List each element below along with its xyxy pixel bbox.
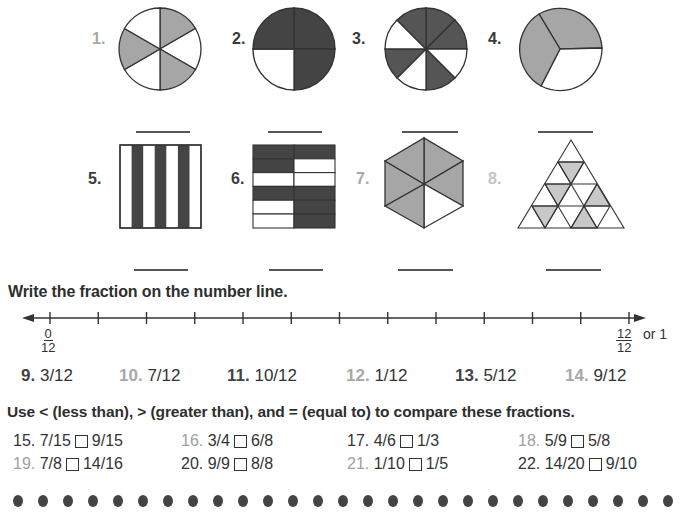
number-line-heading: Write the fraction on the number line.: [8, 283, 287, 301]
answer-line-1[interactable]: [136, 131, 190, 133]
problem-5-label: 5.: [88, 170, 101, 188]
answer-line-3[interactable]: [402, 131, 458, 133]
start-numerator: 0: [44, 327, 53, 341]
footer-dot-border: [13, 495, 673, 507]
compare-item-15: 15. 7/159/15: [13, 432, 123, 450]
fraction-item-14: 14. 9/12: [565, 366, 626, 386]
stripes-figure: [120, 145, 201, 228]
problem-2-label: 2.: [232, 30, 245, 48]
problem-1-label: 1.: [92, 30, 105, 48]
start-denominator: 12: [41, 341, 55, 354]
problem-6-label: 6.: [231, 170, 244, 188]
end-suffix: or 1: [643, 326, 667, 342]
circle-eighths-figure: [385, 8, 467, 90]
triangle-grid-figure: [518, 140, 624, 228]
compare-item-19: 19. 7/814/16: [13, 455, 123, 473]
circle-quarters-figure: [253, 8, 335, 90]
grid-figure: [253, 145, 335, 228]
problem-8-label: 8.: [488, 170, 501, 188]
fraction-item-11: 11. 10/12: [227, 366, 297, 386]
answer-line-2[interactable]: [268, 131, 322, 133]
fraction-item-10: 10. 7/12: [119, 366, 180, 386]
answer-box[interactable]: [589, 458, 602, 471]
answer-box[interactable]: [66, 458, 79, 471]
answer-line-7[interactable]: [398, 269, 453, 271]
end-numerator: 12: [616, 327, 632, 341]
number-line: [22, 312, 646, 324]
number-line-start-label: 0 12: [41, 327, 55, 354]
problem-7-label: 7.: [356, 170, 369, 188]
compare-heading: Use < (less than), > (greater than), and…: [7, 403, 575, 421]
compare-item-18: 18. 5/95/8: [518, 432, 610, 450]
answer-line-8[interactable]: [546, 269, 601, 271]
answer-box[interactable]: [400, 435, 413, 448]
answer-box[interactable]: [409, 458, 422, 471]
fraction-item-9: 9. 3/12: [21, 366, 73, 386]
compare-item-16: 16. 3/46/8: [181, 432, 273, 450]
answer-box[interactable]: [234, 435, 247, 448]
answer-line-5[interactable]: [134, 269, 188, 271]
circle-thirds-figure: [520, 8, 602, 90]
compare-item-21: 21. 1/101/5: [347, 455, 448, 473]
answer-box[interactable]: [571, 435, 584, 448]
fraction-item-12: 12. 1/12: [346, 366, 407, 386]
answer-box[interactable]: [234, 458, 247, 471]
problem-4-label: 4.: [488, 30, 501, 48]
fraction-item-13: 13. 5/12: [455, 366, 516, 386]
circle-sixths-figure: [119, 8, 201, 90]
answer-line-4[interactable]: [538, 131, 593, 133]
hexagon-figure: [385, 138, 463, 228]
compare-item-20: 20. 9/98/8: [181, 455, 273, 473]
number-line-end-label: 12 12: [616, 327, 632, 354]
end-denominator: 12: [617, 341, 631, 354]
answer-box[interactable]: [75, 435, 88, 448]
answer-line-6[interactable]: [269, 269, 323, 271]
compare-item-22: 22. 14/209/10: [518, 455, 637, 473]
problem-3-label: 3.: [352, 30, 365, 48]
compare-item-17: 17. 4/61/3: [347, 432, 439, 450]
